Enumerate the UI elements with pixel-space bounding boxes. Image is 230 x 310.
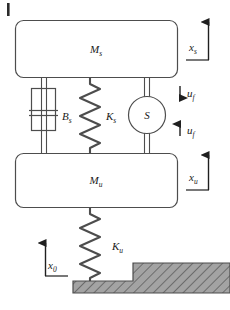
- actuator-force-down-arrow: uf: [180, 86, 196, 102]
- x-sprung-arrow: xs: [186, 22, 209, 60]
- x-unsprung-arrow: xu: [186, 155, 209, 190]
- damper-label: Bs: [62, 110, 72, 125]
- corner-tick-mark: [7, 3, 10, 16]
- actuator-force-down-label: uf: [187, 87, 196, 102]
- suspension-spring-element: Ks: [80, 77, 116, 153]
- actuator-force-up-arrow: uf: [180, 124, 196, 139]
- x-sprung-label: xs: [188, 41, 197, 56]
- diagram-canvas: Ms Bs Ks: [0, 0, 230, 310]
- actuator-element: S: [129, 97, 166, 134]
- tire-spring-element: Ku: [80, 207, 123, 283]
- actuator-force-up-label: uf: [187, 124, 196, 139]
- x-road-arrow: x0: [45, 243, 68, 276]
- damper-element: Bs: [29, 88, 72, 131]
- x-road-label: x0: [47, 259, 57, 274]
- quarter-car-suspension-diagram: Ms Bs Ks: [0, 0, 230, 310]
- sprung-mass-block: Ms: [16, 21, 178, 78]
- ground-road-profile: [73, 263, 230, 293]
- x-unsprung-label: xu: [188, 171, 198, 186]
- unsprung-mass-block: Mu: [16, 154, 178, 208]
- tire-spring-label: Ku: [111, 240, 123, 255]
- actuator-label: S: [144, 109, 150, 121]
- suspension-spring-label: Ks: [105, 110, 116, 125]
